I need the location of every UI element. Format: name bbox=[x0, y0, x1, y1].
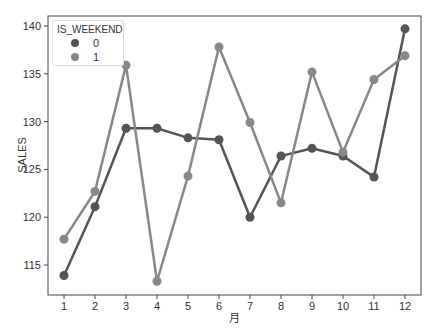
data-point bbox=[370, 173, 379, 182]
data-point bbox=[246, 213, 255, 222]
data-point bbox=[91, 187, 100, 196]
legend-title: IS_WEEKEND bbox=[57, 24, 123, 35]
x-tick-label: 7 bbox=[247, 300, 253, 312]
data-point bbox=[91, 202, 100, 211]
data-point bbox=[122, 124, 131, 133]
data-point bbox=[153, 124, 162, 133]
legend-marker-icon bbox=[71, 53, 79, 61]
x-tick-label: 5 bbox=[185, 300, 191, 312]
data-point bbox=[308, 144, 317, 153]
y-tick-label: 130 bbox=[23, 116, 41, 128]
data-point bbox=[277, 198, 286, 207]
x-tick-label: 4 bbox=[154, 300, 160, 312]
legend-label: 1 bbox=[93, 51, 99, 63]
y-axis-label: SALES bbox=[16, 137, 28, 172]
legend: IS_WEEKEND 0 1 bbox=[52, 20, 124, 66]
x-tick-label: 1 bbox=[61, 300, 67, 312]
y-tick-label: 115 bbox=[23, 259, 41, 271]
data-point bbox=[401, 24, 410, 33]
x-tick-label: 8 bbox=[278, 300, 284, 312]
data-point bbox=[60, 271, 69, 280]
data-point bbox=[184, 133, 193, 142]
y-tick-label: 120 bbox=[23, 211, 41, 223]
data-point bbox=[401, 51, 410, 60]
x-tick-label: 11 bbox=[368, 300, 379, 312]
legend-label: 0 bbox=[93, 37, 99, 49]
data-point bbox=[370, 75, 379, 84]
legend-item-0: 0 bbox=[53, 37, 123, 51]
data-point bbox=[184, 172, 193, 181]
x-tick-label: 2 bbox=[92, 300, 98, 312]
data-point bbox=[60, 235, 69, 244]
data-point bbox=[277, 152, 286, 161]
x-tick-label: 10 bbox=[337, 300, 349, 312]
x-tick-label: 3 bbox=[123, 300, 129, 312]
x-tick-label: 9 bbox=[309, 300, 315, 312]
y-tick-label: 140 bbox=[23, 20, 41, 32]
data-point bbox=[246, 118, 255, 127]
data-point bbox=[215, 43, 224, 52]
data-point bbox=[153, 277, 162, 286]
data-point bbox=[339, 148, 348, 157]
data-point bbox=[308, 67, 317, 76]
x-axis-label: 月 bbox=[229, 312, 240, 324]
x-tick-label: 12 bbox=[399, 300, 411, 312]
x-tick-label: 6 bbox=[216, 300, 222, 312]
legend-marker-icon bbox=[71, 39, 79, 47]
legend-item-1: 1 bbox=[53, 51, 123, 65]
x-axis: 123456789101112 bbox=[61, 295, 411, 312]
data-point bbox=[215, 135, 224, 144]
y-tick-label: 135 bbox=[23, 68, 41, 80]
